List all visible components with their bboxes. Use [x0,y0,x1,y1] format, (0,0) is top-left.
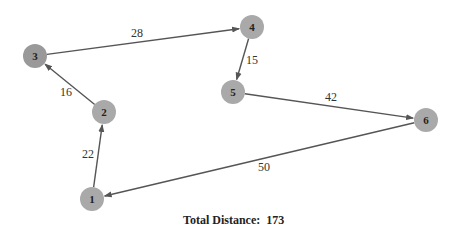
total-distance-label: Total Distance: [183,213,260,227]
node-label: 3 [32,50,38,62]
node-label: 1 [89,193,95,205]
route-graph: 221628154250 123456 [0,0,459,235]
node-1: 1 [80,187,104,211]
node-2: 2 [92,100,116,124]
node-3: 3 [23,44,47,68]
edge-weight-label: 42 [325,90,337,104]
node-label: 4 [249,21,255,33]
node-label: 5 [230,86,236,98]
edge-weight-label: 28 [131,26,143,40]
total-distance: Total Distance: 173 [183,213,284,228]
edge-weight-label: 16 [60,85,72,99]
edge-weight-label: 50 [258,160,270,174]
edge-weight-label: 22 [82,147,94,161]
node-label: 6 [423,114,429,126]
edge-1-2 [94,125,103,187]
total-distance-value: 173 [266,213,284,227]
node-label: 2 [101,106,107,118]
node-5: 5 [221,80,245,104]
edge-3-4 [47,29,239,55]
node-6: 6 [414,108,438,132]
edge-weight-label: 15 [246,53,258,67]
node-4: 4 [240,15,264,39]
